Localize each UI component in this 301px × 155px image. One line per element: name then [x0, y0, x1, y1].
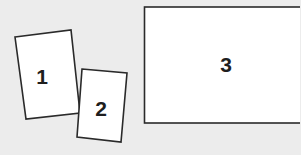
- panel-layout-diagram: 1 2 3: [0, 0, 300, 155]
- panel-1-label: 1: [36, 65, 48, 88]
- panel-1: 1: [15, 30, 80, 119]
- panel-2: 2: [77, 69, 127, 142]
- panel-2-label: 2: [95, 97, 107, 120]
- panel-3: 3: [145, 7, 301, 123]
- panel-3-label: 3: [220, 53, 232, 76]
